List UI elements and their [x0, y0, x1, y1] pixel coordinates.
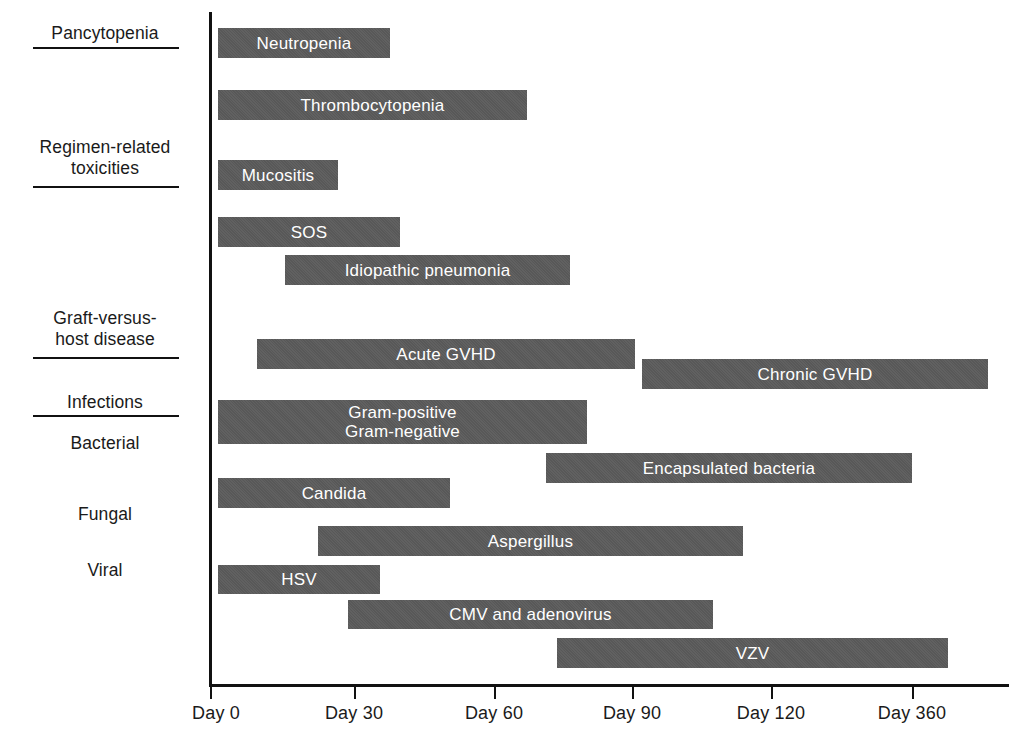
x-tick-day-120	[771, 687, 773, 699]
bar-candida: Candida	[218, 478, 450, 508]
x-tick-day-30	[354, 687, 356, 699]
bar-neutropenia: Neutropenia	[218, 28, 390, 58]
bar-mucositis: Mucositis	[218, 160, 338, 190]
bar-idiopathic-pneumonia: Idiopathic pneumonia	[285, 255, 570, 285]
category-rule-infections	[33, 415, 179, 417]
y-axis-line	[209, 12, 212, 687]
bar-sos: SOS	[218, 217, 400, 247]
bar-thrombocytopenia: Thrombocytopenia	[218, 90, 527, 120]
bar-chronic-gvhd: Chronic GVHD	[642, 359, 988, 389]
x-tick-day-60	[494, 687, 496, 699]
category-rule-regimen-related	[33, 186, 179, 188]
x-tick-label-day-60: Day 60	[439, 703, 549, 724]
x-tick-day-0	[210, 687, 212, 699]
subcategory-label-viral: Viral	[10, 560, 200, 581]
x-axis-line	[209, 684, 1009, 687]
category-rule-gvhd	[33, 357, 179, 359]
x-tick-label-day-360: Day 360	[857, 703, 967, 724]
x-tick-label-day-30: Day 30	[299, 703, 409, 724]
subcategory-label-fungal: Fungal	[10, 504, 200, 525]
x-tick-day-360	[912, 687, 914, 699]
bar-vzv: VZV	[557, 638, 948, 668]
subcategory-label-bacterial: Bacterial	[10, 433, 200, 454]
x-tick-label-day-0: Day 0	[161, 703, 271, 724]
category-label-regimen-related: Regimen-related toxicities	[10, 137, 200, 179]
x-tick-label-day-120: Day 120	[716, 703, 826, 724]
category-label-infections: Infections	[10, 392, 200, 413]
bar-acute-gvhd: Acute GVHD	[257, 339, 635, 369]
category-label-gvhd: Graft-versus- host disease	[10, 308, 200, 350]
category-rule-pancytopenia	[33, 47, 179, 49]
x-tick-label-day-90: Day 90	[577, 703, 687, 724]
bar-encapsulated-bacteria: Encapsulated bacteria	[546, 453, 912, 483]
bar-cmv-adenovirus: CMV and adenovirus	[348, 600, 713, 629]
bar-gram-positive-negative: Gram-positive Gram-negative	[218, 400, 587, 444]
bar-hsv: HSV	[218, 565, 380, 594]
bar-aspergillus: Aspergillus	[318, 526, 743, 556]
timeline-chart: Pancytopenia Regimen-related toxicities …	[0, 0, 1021, 747]
x-tick-day-90	[632, 687, 634, 699]
category-label-pancytopenia: Pancytopenia	[10, 23, 200, 44]
